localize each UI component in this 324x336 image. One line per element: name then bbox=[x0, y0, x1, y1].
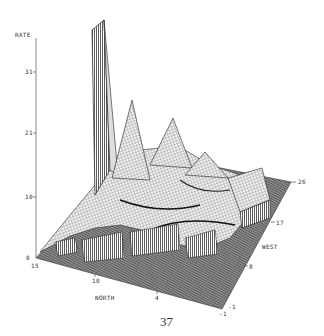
west-axis-label: WEST bbox=[262, 243, 278, 250]
z-tick-21: 21 bbox=[25, 129, 33, 136]
west-tick-17: 17 bbox=[276, 219, 284, 226]
z-tick-10: 10 bbox=[25, 193, 33, 200]
z-tick-31: 31 bbox=[25, 68, 33, 75]
north-axis-label: NORTH bbox=[95, 294, 115, 301]
west-tick-8: 8 bbox=[249, 263, 253, 270]
west-tick-26: 26 bbox=[298, 178, 306, 185]
west-tick-minus1: -1 bbox=[228, 303, 236, 310]
north-tick-10: 10 bbox=[92, 277, 100, 284]
z-axis-label: RATE bbox=[15, 31, 31, 38]
north-tick-15: 15 bbox=[31, 262, 39, 269]
z-tick-0: 0 bbox=[26, 254, 30, 261]
surface-plot bbox=[0, 0, 324, 336]
north-tick-minus1: -1 bbox=[219, 310, 227, 317]
north-tick-4: 4 bbox=[155, 294, 159, 301]
z-axis bbox=[33, 38, 36, 258]
page-number: 37 bbox=[160, 314, 173, 330]
surface-mesh bbox=[40, 20, 270, 262]
